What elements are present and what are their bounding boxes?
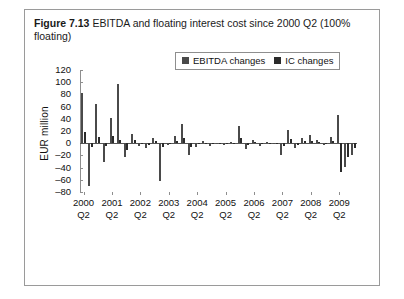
x-axis-tick-mark: [282, 192, 283, 195]
bar: [88, 143, 90, 186]
y-axis-tick-label: 60: [60, 101, 71, 112]
bar: [190, 143, 192, 147]
y-axis-tick-label: –20: [55, 149, 71, 160]
legend-label: IC changes: [285, 55, 333, 66]
bar: [91, 143, 93, 147]
bar: [226, 143, 228, 144]
bars-container: [80, 70, 357, 190]
bar: [354, 143, 356, 148]
y-axis-tick-label: 0: [66, 137, 71, 148]
bar: [169, 143, 171, 144]
x-axis-year: 2009: [319, 197, 359, 209]
bar: [98, 137, 100, 143]
bar: [117, 84, 119, 143]
bar: [325, 143, 327, 144]
x-axis-tick-label: 2009Q2: [319, 197, 359, 220]
legend-swatch-icon: [274, 57, 281, 64]
x-axis-tick-mark: [197, 192, 198, 195]
bar: [261, 143, 263, 144]
x-axis-quarter: Q2: [319, 209, 359, 221]
bar: [233, 143, 235, 144]
y-axis-tick-label: –60: [55, 174, 71, 185]
bar: [240, 138, 242, 143]
x-axis-labels: 2000Q22001Q22002Q22003Q22004Q22005Q22006…: [25, 10, 381, 50]
bar: [119, 140, 121, 144]
bar: [134, 140, 136, 143]
bar: [105, 143, 107, 146]
bar: [340, 143, 342, 172]
bar: [176, 141, 178, 143]
y-axis-tick-label: 40: [60, 113, 71, 124]
y-axis-tick-label: 120: [55, 64, 71, 75]
x-axis-tick-mark: [254, 192, 255, 195]
bar: [283, 143, 285, 146]
y-axis-tick-mark: [80, 192, 83, 193]
x-axis-tick-mark: [140, 192, 141, 195]
bar: [254, 142, 256, 143]
bar: [311, 141, 313, 143]
x-axis-tick-mark: [112, 192, 113, 195]
bar: [347, 143, 349, 157]
bar: [276, 143, 278, 144]
bar: [155, 141, 157, 143]
y-axis-tick-label: 20: [60, 125, 71, 136]
legend-item: IC changes: [274, 55, 333, 66]
y-axis-title: EUR million: [39, 89, 50, 179]
bar: [183, 138, 185, 143]
bar: [337, 115, 339, 144]
bar: [141, 143, 143, 144]
bar: [205, 143, 207, 144]
x-axis-tick-mark: [226, 192, 227, 195]
bar: [162, 143, 164, 147]
y-axis-tick-label: –80: [55, 186, 71, 197]
bar: [247, 143, 249, 145]
x-axis-tick-mark: [311, 192, 312, 195]
bar: [112, 136, 114, 143]
bar: [304, 141, 306, 143]
chart-plot-area: EUR million 120100806040200–20–40–60–80 …: [25, 10, 381, 287]
y-axis-tick-label: –40: [55, 162, 71, 173]
legend-label: EBITDA changes: [193, 55, 265, 66]
bar: [297, 143, 299, 145]
x-axis-tick-mark: [339, 192, 340, 195]
y-axis-tick-label: 80: [60, 88, 71, 99]
legend-swatch-icon: [182, 57, 189, 64]
bar: [332, 141, 334, 143]
legend-item: EBITDA changes: [182, 55, 265, 66]
figure-card: Figure 7.13 EBITDA and floating interest…: [24, 9, 380, 286]
bar: [159, 143, 161, 181]
bar: [269, 143, 271, 144]
bar: [198, 143, 200, 144]
bar: [84, 132, 86, 143]
bar: [148, 143, 150, 145]
x-axis-tick-mark: [169, 192, 170, 195]
x-axis-tick-mark: [84, 192, 85, 195]
bar: [219, 143, 221, 144]
y-axis-tick-label: 100: [55, 76, 71, 87]
chart-legend: EBITDA changesIC changes: [175, 52, 340, 70]
bar: [126, 143, 128, 150]
bar: [290, 139, 292, 143]
bar-series-group: [80, 70, 357, 190]
bar: [318, 142, 320, 143]
bar: [212, 143, 214, 144]
